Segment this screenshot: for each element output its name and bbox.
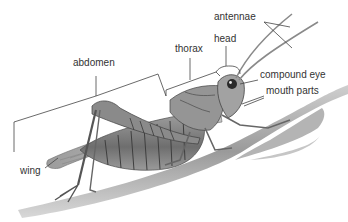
label-thorax: thorax [175,44,203,54]
label-mouth-parts: mouth parts [266,86,319,96]
label-antennae: antennae [214,12,256,22]
head-bracket [216,66,240,74]
grasshopper-illustration [0,0,348,222]
label-wing: wing [20,166,41,176]
compound-eye-shape [227,79,237,89]
label-compound-eye: compound eye [260,70,326,80]
label-head: head [214,34,236,44]
label-abdomen: abdomen [73,58,115,68]
